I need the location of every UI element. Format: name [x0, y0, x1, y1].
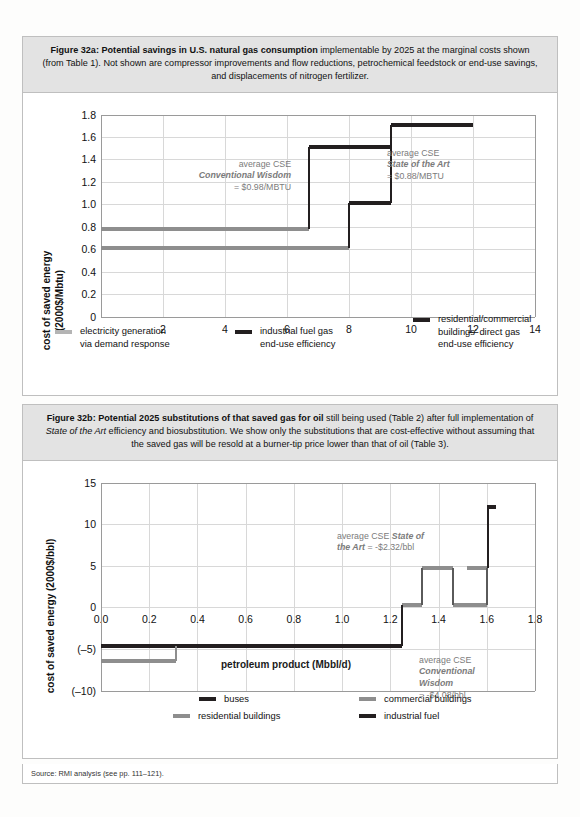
x-axis-title: petroleum product (Mbbl/d) [221, 659, 351, 670]
gridline-horizontal [101, 524, 535, 525]
legend-label-line: electricity generation [80, 325, 166, 336]
legend-item: commercial buildings [359, 693, 472, 706]
legend-label: industrial fuel gasend-use efficiency [260, 325, 335, 350]
step-segment [453, 603, 487, 607]
legend-label: residential/commercialbuildings' direct … [438, 313, 531, 351]
annotation-line: average CSE [387, 148, 439, 158]
step-riser [486, 568, 488, 605]
y-axis-tick-label: 0.4 [81, 266, 101, 278]
x-axis-tick-label: 1.4 [431, 613, 446, 625]
plot-right-border [535, 483, 536, 691]
gridline-vertical [473, 115, 474, 317]
step-segment [467, 566, 486, 570]
annotation-line: = $0.88/MBTU [387, 171, 444, 181]
figure-32b-y-axis-label: cost of saved energy (2000$/bbl) [45, 521, 58, 711]
annotation-line: State of the Art [387, 159, 450, 169]
step-riser [487, 507, 489, 569]
step-riser [452, 568, 454, 605]
step-segment [391, 123, 473, 127]
step-segment [101, 246, 349, 250]
legend-item: industrial fuel [359, 710, 439, 723]
figure-32a-plot: 00.20.40.60.81.01.21.41.61.82468101214av… [101, 115, 535, 317]
gridline-horizontal [101, 159, 535, 160]
legend-label: residential buildings [198, 710, 280, 723]
plot-top-border [101, 483, 535, 484]
x-axis-tick-label: 0.2 [142, 613, 157, 625]
legend-label-line: end-use efficiency [260, 338, 335, 349]
x-axis-tick-label: 0.8 [287, 613, 302, 625]
y-axis-tick-label: (–5) [77, 643, 101, 655]
annotation-line: average CSE [419, 655, 471, 665]
annotation-line: Conventional [419, 666, 475, 676]
figure-32b-caption-italic: State of the Art [46, 426, 106, 436]
plot-right-border [535, 115, 536, 317]
x-axis-tick-label: 1.6 [479, 613, 494, 625]
chart-annotation: average CSEState of the Art= $0.88/MBTU [387, 148, 450, 184]
y-axis-tick-label: 1.6 [81, 131, 101, 143]
y-axis-tick-label: 0.8 [81, 221, 101, 233]
x-axis-tick-label: 0.4 [190, 613, 205, 625]
legend-label-line: end-use efficiency [438, 338, 513, 349]
x-axis-tick-label: 1.0 [335, 613, 350, 625]
gridline-horizontal [101, 182, 535, 183]
figure-page: Figure 32a: Potential savings in U.S. na… [0, 0, 580, 817]
legend-item: industrial fuel gasend-use efficiency [235, 325, 405, 350]
figure-32b-caption: Figure 32b: Potential 2025 substitutions… [23, 405, 557, 461]
step-riser [401, 605, 403, 646]
legend-color-swatch [359, 697, 376, 701]
step-riser [308, 147, 310, 229]
gridline-horizontal [101, 204, 535, 205]
gridline-horizontal [101, 294, 535, 295]
y-axis-tick-label: 15 [84, 477, 101, 489]
plot-top-border [101, 115, 535, 116]
gridline-horizontal [101, 137, 535, 138]
y-axis-tick-label: 0.2 [81, 288, 101, 300]
figure-32b-legend: busescommercial buildingsresidential bui… [23, 693, 557, 753]
step-riser [421, 568, 423, 605]
y-axis-tick-label: 0.6 [81, 243, 101, 255]
gridline-horizontal [101, 607, 535, 608]
legend-label: commercial buildings [384, 693, 472, 706]
gridline-vertical [411, 115, 412, 317]
legend-item: residential buildings [173, 710, 280, 723]
gridline-vertical [225, 115, 226, 317]
source-note: Source: RMI analysis (see pp. 111–121). [22, 764, 558, 784]
figure-32a-caption-bold: Figure 32a: Potential savings in U.S. na… [50, 45, 317, 55]
annotation-line: Wisdom [419, 678, 453, 688]
legend-item: residential/commercialbuildings' direct … [413, 313, 580, 351]
annotation-line: average CSE [337, 531, 392, 541]
legend-label-line: via demand response [80, 338, 170, 349]
y-axis-label-line2: (2000$/Mbtu) [54, 269, 65, 330]
y-axis-line [101, 115, 102, 317]
figure-32b-panel: Figure 32b: Potential 2025 substitutions… [22, 404, 558, 759]
chart-annotation: average CSEConventional Wisdom= $0.98/MB… [199, 159, 291, 195]
gridline-horizontal [101, 649, 535, 650]
step-segment [101, 659, 176, 663]
x-axis-tick-label: 1.2 [383, 613, 398, 625]
y-axis-tick-label: 0 [90, 601, 101, 613]
step-segment [101, 227, 309, 231]
y-axis-tick-label: 1.2 [81, 176, 101, 188]
legend-color-swatch [413, 318, 430, 322]
step-segment [349, 201, 391, 205]
annotation-line: the Art [337, 542, 365, 552]
legend-label: electricity generationvia demand respons… [80, 325, 170, 350]
figure-32a-panel: Figure 32a: Potential savings in U.S. na… [22, 36, 558, 396]
y-axis-tick-label: 10 [84, 518, 101, 530]
legend-label-line: buildings' direct gas [438, 326, 520, 337]
annotation-line: = $0.98/MBTU [234, 182, 291, 192]
legend-color-swatch [359, 714, 376, 718]
chart-annotation: average CSE State ofthe Art = -$2.32/bbl [337, 531, 424, 555]
legend-label: buses [224, 693, 249, 706]
annotation-line: Conventional Wisdom [199, 170, 291, 180]
y-axis-tick-label: 5 [90, 560, 101, 572]
legend-color-swatch [55, 330, 72, 334]
gridline-vertical [287, 115, 288, 317]
legend-color-swatch [199, 697, 216, 701]
legend-label-line: residential/commercial [438, 313, 531, 324]
gridline-vertical [163, 115, 164, 317]
figure-32b-plot: (–10)(–5)0510150.00.20.40.60.81.01.21.41… [101, 483, 535, 691]
figure-32a-caption: Figure 32a: Potential savings in U.S. na… [23, 37, 557, 93]
figure-32b-caption-rest: efficiency and biosubstitution. We show … [106, 426, 534, 449]
step-segment [402, 603, 421, 607]
